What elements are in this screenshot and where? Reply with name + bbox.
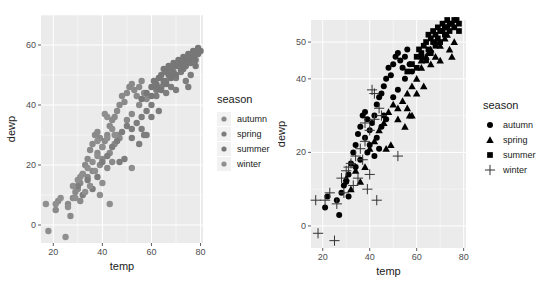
data-point-spring [138,126,144,132]
data-point-summer [414,65,420,71]
x-axis-title: temp [376,265,400,277]
legend-label-autumn: autumn [237,114,267,124]
y-tick-label: 0 [301,221,306,231]
scatter-plot-color: 204060800204060tempdewpseasonautumnsprin… [0,0,278,290]
data-point-winter [92,168,98,174]
data-point-autumn [390,61,396,67]
data-point-spring [129,126,135,132]
data-point-summer [148,93,154,99]
data-point-spring [188,72,194,78]
data-point-autumn [53,207,59,213]
data-point-winter [104,114,110,120]
legend-label-winter: winter [502,165,527,175]
data-point-spring [185,84,191,90]
legend-label-summer: summer [503,150,536,160]
data-point-autumn [395,87,401,93]
data-point-spring [148,114,154,120]
data-point-winter [82,189,88,195]
data-point-winter [129,165,135,171]
data-point-autumn [322,205,328,211]
data-point-spring [104,153,110,159]
data-point-winter [89,159,95,165]
data-point-autumn [138,78,144,84]
data-point-autumn [376,146,382,152]
data-point-winter [70,183,76,189]
y-tick-label: 50 [296,37,306,47]
data-point-autumn [124,117,130,123]
data-point-autumn [402,76,408,82]
legend: seasonautumnspringsummerwinter [483,99,536,177]
data-point-summer [419,54,425,60]
x-tick-label: 40 [365,252,375,262]
data-point-autumn [346,194,352,200]
data-point-spring [119,129,125,135]
data-point-autumn [386,65,392,71]
data-point-spring [116,159,122,165]
data-point-winter [57,195,63,201]
data-point-spring [148,102,154,108]
data-point-autumn [395,50,401,56]
data-point-winter [87,183,93,189]
data-point-autumn [397,57,403,63]
y-tick-label: 20 [296,147,306,157]
data-point-winter [72,195,78,201]
legend-label-spring: spring [237,129,262,139]
data-point-winter [62,234,68,240]
data-point-spring [183,78,189,84]
data-point-autumn [87,147,93,153]
data-point-winter [111,132,117,138]
legend-label-summer: summer [237,144,270,154]
y-axis-title: dewp [5,116,17,142]
data-point-summer [404,69,410,75]
data-point-spring [134,120,140,126]
data-point-autumn [67,213,73,219]
legend-title: season [217,93,252,105]
legend-marker-winter [221,161,226,166]
data-point-autumn [336,212,342,218]
data-point-autumn [404,46,410,52]
legend-label-spring: spring [503,135,528,145]
y-axis-title: dewp [278,121,287,147]
x-tick-label: 80 [459,252,469,262]
x-tick-label: 20 [318,252,328,262]
y-tick-label: 40 [296,74,306,84]
data-point-winter [94,153,100,159]
scatter-plot-shape: 204060800204050tempdewpseasonautumnsprin… [278,0,555,290]
data-point-winter [94,138,100,144]
data-point-winter [65,204,71,210]
data-point-winter [45,228,51,234]
chart-svg-right: 204060800204050tempdewpseasonautumnsprin… [278,0,555,290]
data-point-autumn [388,72,394,78]
data-point-summer [456,28,462,34]
data-point-autumn [383,76,389,82]
data-point-autumn [109,159,115,165]
data-point-summer [426,47,432,53]
data-point-spring [94,174,100,180]
data-point-winter [104,135,110,141]
data-point-winter [107,201,113,207]
data-point-autumn [362,109,368,115]
data-point-summer [153,84,159,90]
data-point-autumn [381,83,387,89]
legend-marker-summer [221,146,226,151]
data-point-spring [136,141,142,147]
legend-label-winter: winter [236,159,261,169]
data-point-spring [99,159,105,165]
data-point-spring [156,108,162,114]
data-point-winter [97,192,103,198]
data-point-autumn [111,114,117,120]
data-point-autumn [129,81,135,87]
legend-marker-autumn [221,116,226,121]
plot-panel [311,20,466,248]
data-point-summer [435,36,441,42]
data-point-summer [195,51,201,57]
legend-marker-summer [487,152,493,158]
data-point-spring [84,177,90,183]
data-point-autumn [94,129,100,135]
data-point-winter [84,165,90,171]
data-point-autumn [353,142,359,148]
legend-title: season [483,99,518,111]
x-tick-label: 80 [196,247,206,257]
x-tick-label: 20 [48,247,58,257]
y-tick-label: 40 [26,100,36,110]
